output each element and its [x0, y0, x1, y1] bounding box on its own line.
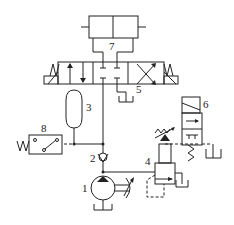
label-4: 4: [145, 155, 151, 167]
label-1: 1: [82, 182, 88, 194]
hydraulic-diagram: 7 5: [0, 0, 234, 225]
spring-icon: [188, 145, 194, 161]
pressure-switch-8: 8: [17, 122, 62, 154]
label-8: 8: [41, 122, 47, 134]
spring-right-icon: [164, 64, 173, 76]
label-7: 7: [109, 40, 115, 52]
spring-icon: [17, 141, 29, 151]
solenoid-valve-6: 6: [182, 97, 221, 161]
cylinder-7: 7: [81, 16, 146, 62]
check-valve-2: 2: [90, 150, 108, 172]
label-2: 2: [90, 152, 96, 164]
label-6: 6: [203, 98, 209, 110]
accumulator-3: 3: [66, 90, 92, 136]
label-3: 3: [86, 101, 92, 113]
label-5: 5: [136, 83, 142, 95]
relief-valve-4: 4: [145, 127, 200, 197]
pump-1: 1: [82, 176, 134, 210]
